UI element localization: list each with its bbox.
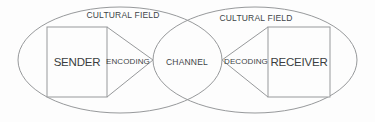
cultural-field-left-label: CULTURAL FIELD bbox=[86, 10, 159, 20]
decoding-label: DECODING bbox=[224, 57, 268, 66]
channel-label: CHANNEL bbox=[166, 57, 208, 67]
cultural-field-right-label: CULTURAL FIELD bbox=[219, 13, 292, 23]
receiver-label: RECEIVER bbox=[270, 56, 327, 68]
communication-model-diagram: CULTURAL FIELD CULTURAL FIELD SENDER ENC… bbox=[0, 0, 375, 122]
encoding-label: ENCODING bbox=[106, 57, 150, 66]
sender-label: SENDER bbox=[54, 56, 101, 68]
diagram-svg: CULTURAL FIELD CULTURAL FIELD SENDER ENC… bbox=[0, 0, 375, 122]
